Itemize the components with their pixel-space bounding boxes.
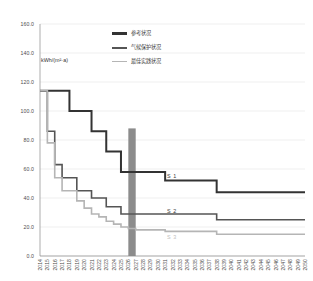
x-tick-label: 2042 bbox=[243, 259, 249, 271]
x-tick-label: 2020 bbox=[81, 259, 87, 271]
x-tick-label: 2041 bbox=[236, 259, 242, 271]
y-axis-unit-label: kWh/(m²·a) bbox=[41, 57, 68, 63]
chart-legend: 参考状况 气候保护状况 最佳实践状况 bbox=[112, 30, 161, 65]
x-tick-label: 2029 bbox=[147, 259, 153, 271]
y-tick-label: 160.0 bbox=[8, 21, 34, 27]
y-tick-label: 80.0 bbox=[8, 137, 34, 143]
legend-label-best-practice: 最佳实践状况 bbox=[131, 58, 161, 65]
x-tick-label: 2049 bbox=[295, 259, 301, 271]
x-tick-label: 2037 bbox=[206, 259, 212, 271]
x-tick-label: 2044 bbox=[258, 259, 264, 271]
x-tick-label: 2043 bbox=[250, 259, 256, 271]
x-tick-label: 2023 bbox=[103, 259, 109, 271]
y-tick-label: 120.0 bbox=[8, 79, 34, 85]
x-tick-label: 2028 bbox=[140, 259, 146, 271]
x-tick-label: 2016 bbox=[52, 259, 58, 271]
x-tick-label: 2018 bbox=[66, 259, 72, 271]
x-tick-label: 2030 bbox=[155, 259, 161, 271]
x-tick-label: 2046 bbox=[273, 259, 279, 271]
x-tick-label: 2035 bbox=[192, 259, 198, 271]
series-tag-s2: S 2 bbox=[167, 208, 177, 214]
x-tick-label: 2021 bbox=[89, 259, 95, 271]
x-tick-label: 2026 bbox=[125, 259, 131, 271]
x-tick-label: 2050 bbox=[302, 259, 308, 271]
x-tick-label: 2047 bbox=[280, 259, 286, 271]
series-tag-s3: S 3 bbox=[167, 234, 177, 240]
y-tick-label: 60.0 bbox=[8, 166, 34, 172]
legend-item-reference: 参考状况 bbox=[112, 30, 161, 37]
x-tick-label: 2038 bbox=[214, 259, 220, 271]
x-tick-label: 2022 bbox=[96, 259, 102, 271]
legend-label-climate-protection: 气候保护状况 bbox=[131, 44, 161, 51]
x-tick-label: 2045 bbox=[265, 259, 271, 271]
x-tick-label: 2017 bbox=[59, 259, 65, 271]
x-tick-label: 2036 bbox=[199, 259, 205, 271]
x-tick-label: 2027 bbox=[133, 259, 139, 271]
legend-item-best-practice: 最佳实践状况 bbox=[112, 58, 161, 65]
x-tick-label: 2024 bbox=[111, 259, 117, 271]
highlight-band bbox=[128, 128, 135, 256]
y-tick-label: 140.0 bbox=[8, 50, 34, 56]
y-tick-label: 40.0 bbox=[8, 195, 34, 201]
x-tick-label: 2025 bbox=[118, 259, 124, 271]
x-tick-label: 2039 bbox=[221, 259, 227, 271]
x-tick-label: 2015 bbox=[44, 259, 50, 271]
legend-swatch-climate-protection bbox=[112, 47, 127, 49]
legend-item-climate-protection: 气候保护状况 bbox=[112, 44, 161, 51]
legend-swatch-reference bbox=[112, 32, 127, 34]
x-tick-label: 2040 bbox=[228, 259, 234, 271]
x-tick-label: 2019 bbox=[74, 259, 80, 271]
y-tick-label: 20.0 bbox=[8, 224, 34, 230]
x-tick-label: 2048 bbox=[287, 259, 293, 271]
gridlines bbox=[40, 24, 305, 256]
x-tick-label: 2014 bbox=[37, 259, 43, 271]
x-tick-label: 2032 bbox=[170, 259, 176, 271]
y-tick-label: 100.0 bbox=[8, 108, 34, 114]
series-tag-s1: S 1 bbox=[167, 173, 177, 179]
legend-label-reference: 参考状况 bbox=[131, 30, 151, 37]
y-tick-label: 0.0 bbox=[8, 253, 34, 259]
x-tick-label: 2033 bbox=[177, 259, 183, 271]
legend-swatch-best-practice bbox=[112, 61, 127, 63]
x-tick-label: 2034 bbox=[184, 259, 190, 271]
chart-container: 0.020.040.060.080.0100.0120.0140.0160.0 … bbox=[0, 0, 313, 281]
x-tick-label: 2031 bbox=[162, 259, 168, 271]
